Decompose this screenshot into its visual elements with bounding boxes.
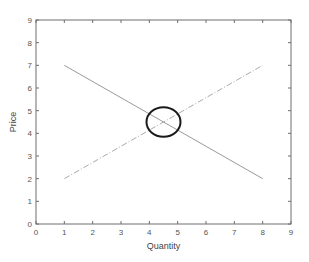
x-tick-label: 9 [289, 228, 294, 237]
supply-demand-chart: 01234567890123456789QuantityPrice [0, 0, 309, 262]
y-tick-label: 8 [28, 39, 33, 48]
y-tick-label: 7 [28, 61, 33, 70]
y-tick-label: 4 [28, 129, 33, 138]
x-tick-label: 2 [90, 228, 95, 237]
y-tick-label: 3 [28, 152, 33, 161]
x-tick-label: 8 [260, 228, 265, 237]
y-tick-label: 1 [28, 197, 33, 206]
y-tick-label: 5 [28, 107, 33, 116]
x-tick-label: 5 [175, 228, 180, 237]
y-axis-label: Price [8, 112, 18, 133]
x-tick-label: 1 [62, 228, 67, 237]
y-tick-label: 0 [28, 220, 33, 229]
x-tick-label: 3 [119, 228, 124, 237]
x-tick-label: 0 [34, 228, 39, 237]
x-tick-label: 6 [204, 228, 209, 237]
y-tick-label: 2 [28, 175, 33, 184]
x-tick-label: 7 [232, 228, 237, 237]
x-tick-label: 4 [147, 228, 152, 237]
y-tick-label: 9 [28, 16, 33, 25]
y-tick-label: 6 [28, 84, 33, 93]
x-axis-label: Quantity [147, 241, 181, 251]
